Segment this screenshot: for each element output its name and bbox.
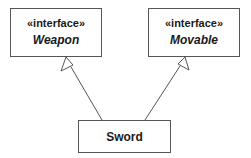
class-name: Weapon [33, 33, 79, 48]
class-name: Sword [106, 130, 143, 144]
movable-interface-box[interactable]: «interface» Movable [148, 8, 240, 57]
weapon-interface-box[interactable]: «interface» Weapon [10, 8, 102, 57]
sword-to-movable-relation [145, 57, 189, 120]
stereotype-label: «interface» [27, 17, 85, 30]
sword-to-weapon-relation [61, 57, 102, 120]
class-name: Movable [170, 33, 218, 48]
hollow-arrowhead-icon [178, 57, 189, 70]
stereotype-label: «interface» [165, 17, 223, 30]
hollow-arrowhead-icon [61, 57, 73, 71]
sword-class-box[interactable]: Sword [78, 120, 171, 153]
